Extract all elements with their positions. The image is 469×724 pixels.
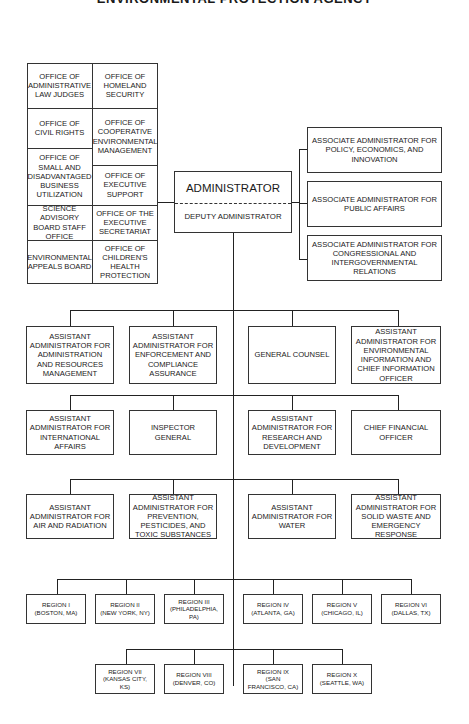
org-box-label: ASSISTANT ADMINISTRATOR FOR SOLID WASTE … bbox=[354, 493, 438, 539]
region-city: (DALLAS, TX) bbox=[391, 609, 430, 617]
connector-line bbox=[70, 395, 399, 396]
region-city: (NEW YORK, NY) bbox=[100, 609, 150, 617]
org-box-region-3: REGION III(PHILADELPHIA, PA) bbox=[164, 594, 224, 624]
org-box-label: INSPECTOR GENERAL bbox=[132, 423, 214, 442]
org-box-label: ASSISTANT ADMINISTRATOR FOR ENVIRONMENTA… bbox=[354, 327, 438, 383]
org-box-region-8: REGION VIII(DENVER, CO) bbox=[164, 664, 224, 694]
org-box-aa-prevention-pesticides-toxics: ASSISTANT ADMINISTRATOR FOR PREVENTION, … bbox=[129, 494, 217, 539]
connector-line bbox=[57, 579, 58, 594]
org-box-environmental-appeals-board: ENVIRONMENTAL APPEALS BOARD bbox=[27, 240, 92, 284]
connector-line bbox=[273, 579, 274, 594]
org-box-aa-environmental-information: ASSISTANT ADMINISTRATOR FOR ENVIRONMENTA… bbox=[351, 326, 441, 384]
connector-line bbox=[411, 579, 412, 594]
org-box-label: OFFICE OF ADMINISTRATIVE LAW JUDGES bbox=[28, 72, 91, 100]
org-box-label: OFFICE OF CIVIL RIGHTS bbox=[29, 119, 90, 138]
org-box-aa-international-affairs: ASSISTANT ADMINISTRATOR FOR INTERNATIONA… bbox=[26, 410, 114, 455]
connector-line bbox=[398, 395, 399, 410]
administrator-title: ADMINISTRATOR bbox=[175, 182, 291, 194]
org-box-label: OFFICE OF CHILDREN'S HEALTH PROTECTION bbox=[94, 244, 156, 281]
connector-line bbox=[292, 479, 293, 494]
connector-line bbox=[126, 579, 127, 594]
connector-line bbox=[342, 579, 343, 594]
org-box-label: ASSISTANT ADMINISTRATOR FOR ADMINISTRATI… bbox=[29, 332, 111, 378]
org-box-label: OFFICE OF EXECUTIVE SUPPORT bbox=[94, 171, 156, 199]
org-box-label: ENVIRONMENTAL APPEALS BOARD bbox=[27, 253, 92, 272]
org-box-label: ASSOCIATE ADMINISTRATOR FOR PUBLIC AFFAI… bbox=[310, 195, 439, 214]
org-box-label: SCIENCE ADVISORY BOARD STAFF OFFICE bbox=[29, 204, 90, 241]
connector-line bbox=[398, 310, 399, 326]
org-box-region-1: REGION I(BOSTON, MA) bbox=[26, 594, 86, 624]
region-name: REGION I bbox=[35, 601, 78, 609]
region-city: (ATLANTA, GA) bbox=[251, 609, 294, 617]
connector-line bbox=[194, 579, 195, 594]
region-name: REGION VIII bbox=[173, 671, 216, 679]
connector-line bbox=[70, 479, 71, 494]
org-box-chief-financial-officer: CHIEF FINANCIAL OFFICER bbox=[351, 410, 441, 455]
connector-line bbox=[292, 310, 293, 326]
connector-line bbox=[273, 649, 274, 664]
org-box-label: ASSOCIATE ADMINISTRATOR FOR CONGRESSIONA… bbox=[310, 240, 439, 277]
connector-line bbox=[173, 479, 174, 494]
org-box-science-advisory-board: SCIENCE ADVISORY BOARD STAFF OFFICE bbox=[27, 205, 92, 240]
connector-line bbox=[126, 649, 342, 650]
region-name: REGION VI bbox=[391, 601, 430, 609]
connector-line bbox=[57, 579, 412, 580]
connector-line bbox=[299, 149, 300, 259]
region-city: (SAN FRANCISCO, CA) bbox=[246, 675, 300, 690]
org-box-label: ASSISTANT ADMINISTRATOR FOR AIR AND RADI… bbox=[29, 503, 111, 531]
connector-line bbox=[158, 202, 174, 203]
connector-line bbox=[194, 649, 195, 664]
org-box-cooperative-environmental-management: OFFICE OF COOPERATIVE ENVIRONMENTAL MANA… bbox=[92, 108, 158, 165]
connector-line bbox=[398, 479, 399, 494]
org-box-region-2: REGION II(NEW YORK, NY) bbox=[95, 594, 155, 624]
org-box-aa-administration-resources: ASSISTANT ADMINISTRATOR FOR ADMINISTRATI… bbox=[26, 326, 114, 384]
org-box-label: ASSOCIATE ADMINISTRATOR FOR POLICY, ECON… bbox=[310, 136, 439, 164]
region-city: (SEATTLE, WA) bbox=[320, 679, 364, 687]
connector-line bbox=[299, 149, 307, 150]
org-box-childrens-health-protection: OFFICE OF CHILDREN'S HEALTH PROTECTION bbox=[92, 240, 158, 284]
region-city: (KANSAS CITY, KS) bbox=[98, 675, 152, 690]
org-box-region-5: REGION V(CHICAGO, IL) bbox=[312, 594, 372, 624]
org-box-label: GENERAL COUNSEL bbox=[255, 350, 330, 359]
org-box-general-counsel: GENERAL COUNSEL bbox=[248, 326, 336, 384]
region-city: (DENVER, CO) bbox=[173, 679, 216, 687]
dashed-divider bbox=[175, 203, 291, 204]
region-city: (PHILADELPHIA, PA) bbox=[167, 605, 221, 620]
region-name: REGION II bbox=[100, 601, 150, 609]
org-box-aa-water: ASSISTANT ADMINISTRATOR FOR WATER bbox=[248, 494, 336, 539]
deputy-administrator-title: DEPUTY ADMINISTRATOR bbox=[175, 212, 291, 221]
org-box-inspector-general: INSPECTOR GENERAL bbox=[129, 410, 217, 455]
org-box-executive-support: OFFICE OF EXECUTIVE SUPPORT bbox=[92, 165, 158, 205]
org-box-assoc-congressional-intergovernmental: ASSOCIATE ADMINISTRATOR FOR CONGRESSIONA… bbox=[307, 235, 442, 281]
org-box-aa-research-development: ASSISTANT ADMINISTRATOR FOR RESEARCH AND… bbox=[248, 410, 336, 455]
connector-line bbox=[70, 395, 71, 410]
region-name: REGION IX bbox=[246, 668, 300, 676]
org-box-label: ASSISTANT ADMINISTRATOR FOR INTERNATIONA… bbox=[29, 414, 111, 451]
connector-line bbox=[173, 395, 174, 410]
org-box-region-7: REGION VII(KANSAS CITY, KS) bbox=[95, 664, 155, 694]
org-box-assoc-public-affairs: ASSOCIATE ADMINISTRATOR FOR PUBLIC AFFAI… bbox=[307, 181, 442, 227]
org-box-label: ASSISTANT ADMINISTRATOR FOR ENFORCEMENT … bbox=[132, 332, 214, 378]
org-box-region-4: REGION IV(ATLANTA, GA) bbox=[243, 594, 303, 624]
region-name: REGION V bbox=[321, 601, 363, 609]
org-box-label: ASSISTANT ADMINISTRATOR FOR WATER bbox=[251, 503, 333, 531]
region-name: REGION III bbox=[167, 598, 221, 606]
connector-line bbox=[292, 395, 293, 410]
region-name: REGION VII bbox=[98, 668, 152, 676]
org-box-aa-air-radiation: ASSISTANT ADMINISTRATOR FOR AIR AND RADI… bbox=[26, 494, 114, 539]
org-box-homeland-security: OFFICE OF HOMELAND SECURITY bbox=[92, 63, 158, 108]
org-box-label: ASSISTANT ADMINISTRATOR FOR PREVENTION, … bbox=[132, 493, 214, 539]
org-box-assoc-policy-economics-innovation: ASSOCIATE ADMINISTRATOR FOR POLICY, ECON… bbox=[307, 127, 442, 173]
org-box-label: OFFICE OF COOPERATIVE ENVIRONMENTAL MANA… bbox=[93, 118, 158, 155]
connector-line bbox=[342, 649, 343, 664]
org-box-label: OFFICE OF THE EXECUTIVE SECRETARIAT bbox=[94, 209, 156, 237]
org-box-region-6: REGION VI(DALLAS, TX) bbox=[381, 594, 441, 624]
connector-line bbox=[173, 310, 174, 326]
org-box-civil-rights: OFFICE OF CIVIL RIGHTS bbox=[27, 108, 92, 148]
region-city: (BOSTON, MA) bbox=[35, 609, 78, 617]
org-box-region-9: REGION IX(SAN FRANCISCO, CA) bbox=[243, 664, 303, 694]
connector-line bbox=[299, 259, 307, 260]
connector-line bbox=[70, 479, 399, 480]
region-city: (CHICAGO, IL) bbox=[321, 609, 363, 617]
org-box-aa-enforcement-compliance: ASSISTANT ADMINISTRATOR FOR ENFORCEMENT … bbox=[129, 326, 217, 384]
